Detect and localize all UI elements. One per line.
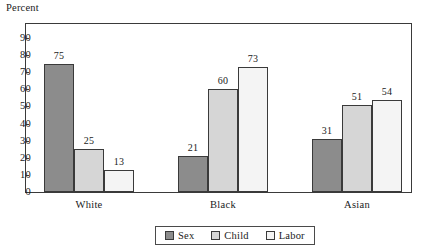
y-axis-tick-mark [25, 141, 29, 142]
legend-entry-child: Child [211, 230, 248, 242]
legend-swatch-icon [266, 231, 275, 240]
legend-label: Sex [178, 230, 194, 242]
y-axis-tick-mark [25, 175, 29, 176]
y-axis-tick-mark [25, 106, 29, 107]
chart-legend: SexChildLabor [155, 226, 315, 245]
y-axis-tick-mark [25, 158, 29, 159]
legend-label: Labor [279, 230, 305, 242]
y-axis-tick-mark [25, 89, 29, 90]
y-axis-title: Percent [6, 2, 39, 14]
legend-entry-labor: Labor [266, 230, 305, 242]
legend-swatch-icon [165, 231, 174, 240]
x-axis-label-white: White [34, 198, 144, 211]
legend-label: Child [224, 230, 248, 242]
x-axis-label-black: Black [168, 198, 278, 211]
y-axis-tick-mark [25, 124, 29, 125]
plot-area [25, 23, 412, 193]
y-axis-tick-mark [25, 55, 29, 56]
y-axis-tick-label: 0 [0, 186, 31, 198]
legend-entry-sex: Sex [165, 230, 194, 242]
x-axis-label-asian: Asian [302, 198, 412, 211]
y-axis-tick-mark [25, 72, 29, 73]
bar-chart-figure: Percent 9080706050403020100 752513216073… [0, 0, 428, 251]
y-axis-tick-mark [25, 38, 29, 39]
legend-swatch-icon [211, 231, 220, 240]
